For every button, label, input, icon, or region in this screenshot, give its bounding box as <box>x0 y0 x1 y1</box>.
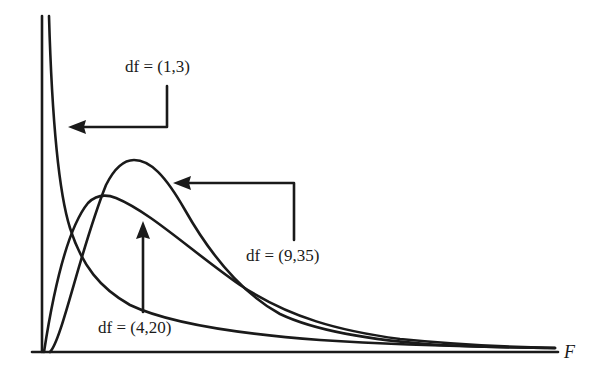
arrow-df-1-3-line <box>80 86 167 127</box>
label-df-9-35: df = (9,35) <box>246 247 319 264</box>
chart-canvas <box>0 0 608 370</box>
arrowhead-df-1-3 <box>68 120 86 134</box>
x-axis-label: F <box>564 343 575 361</box>
arrowhead-df-9-35 <box>173 176 191 190</box>
label-df-4-20: df = (4,20) <box>98 319 171 336</box>
f-distribution-chart: df = (1,3) df = (9,35) df = (4,20) F <box>0 0 608 370</box>
arrowhead-df-4-20 <box>136 221 150 239</box>
arrow-df-9-35-line <box>186 183 294 240</box>
label-df-1-3: df = (1,3) <box>125 58 190 75</box>
